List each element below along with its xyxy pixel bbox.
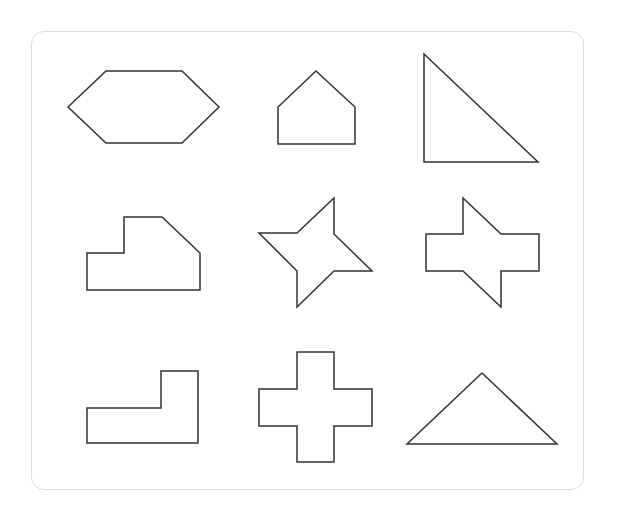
- diagram-canvas: [0, 0, 617, 514]
- right-triangle-shape: [424, 54, 538, 162]
- stepped-chamfered-shape: [87, 217, 200, 290]
- isosceles-triangle-shape: [407, 373, 557, 444]
- plus-cross-shape: [259, 352, 372, 462]
- shapes-grid: [0, 0, 617, 514]
- pinwheel-star-shape: [259, 198, 372, 307]
- pentagon-house-shape: [278, 71, 355, 144]
- bowtie-cross-shape: [426, 198, 539, 307]
- hexagon-shape: [68, 71, 219, 143]
- l-shape: [87, 371, 198, 443]
